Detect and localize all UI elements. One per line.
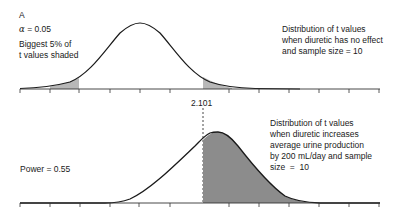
top-description-line2: when diuretic has no effect: [282, 35, 383, 45]
critical-value-label: 2.101: [191, 98, 212, 108]
bottom-description-line2: when diuretic increases: [270, 129, 359, 139]
power-label: Power = 0.55: [20, 164, 70, 174]
top-axis-ticks: [20, 89, 379, 93]
bottom-description-line1: Distribution of t values: [270, 118, 354, 128]
top-right-tail-shade: [203, 77, 232, 89]
shade-note-line2: t values shaded: [19, 50, 79, 60]
alpha-symbol: α: [19, 24, 25, 34]
bottom-description-line4: by 200 mL/day and sample: [270, 151, 372, 161]
alpha-label: α = 0.05: [19, 24, 51, 34]
panel-label: A: [19, 10, 25, 20]
top-description-line3: and sample size = 10: [282, 46, 363, 56]
bottom-description-line5: size = 10: [270, 162, 309, 172]
bottom-description-line3: average urine production: [270, 140, 364, 150]
top-description-line1: Distribution of t values: [282, 24, 366, 34]
shade-note-line1: Biggest 5% of: [19, 39, 71, 49]
